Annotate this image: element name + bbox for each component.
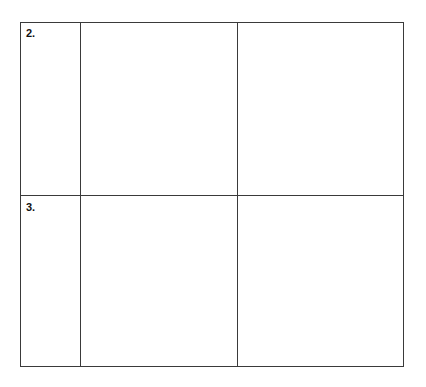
row-number-2: 2. <box>26 27 35 39</box>
row-2-cell-1 <box>81 23 237 195</box>
row-number-3: 3. <box>26 201 35 213</box>
answer-table: 2. 3. <box>20 22 404 367</box>
row-3-cell-2 <box>238 196 404 366</box>
row-3-cell-1 <box>81 196 237 366</box>
row-2-cell-2 <box>238 23 404 195</box>
